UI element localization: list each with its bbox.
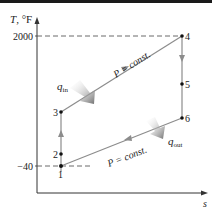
point-4 xyxy=(180,34,184,38)
arrow-left-icon xyxy=(124,135,132,141)
ts-diagram: T, °F s 2000 −40 qin qout P = const. P =… xyxy=(0,0,212,212)
point-2 xyxy=(59,152,63,156)
y-axis xyxy=(35,17,40,193)
y-tick-minus40: −40 xyxy=(17,161,33,172)
y-axis-arrow-icon xyxy=(35,17,40,24)
x-axis-label: s xyxy=(203,198,207,209)
heat-out-arrow xyxy=(146,117,165,139)
heat-in-arrow xyxy=(70,80,95,104)
arrow-up-icon xyxy=(58,130,64,137)
x-axis xyxy=(37,191,208,196)
point-label-5: 5 xyxy=(185,79,190,90)
y-tick-2000: 2000 xyxy=(13,31,33,42)
arrow-down-icon xyxy=(179,55,185,62)
point-label-3: 3 xyxy=(53,107,58,118)
q-out-label: qout xyxy=(168,135,183,149)
point-1 xyxy=(59,164,63,168)
point-label-4: 4 xyxy=(185,31,190,42)
lower-pressure-label: P = const. xyxy=(105,144,148,169)
point-5 xyxy=(180,82,184,86)
y-axis-label: T, °F xyxy=(10,13,32,25)
point-6 xyxy=(180,116,184,120)
x-axis-arrow-icon xyxy=(201,191,208,196)
point-label-2: 2 xyxy=(53,149,58,160)
upper-pressure-label: P = const. xyxy=(110,48,152,80)
point-label-6: 6 xyxy=(185,113,190,124)
q-in-label: qin xyxy=(57,80,68,94)
point-label-1: 1 xyxy=(58,169,63,180)
point-3 xyxy=(59,110,63,114)
